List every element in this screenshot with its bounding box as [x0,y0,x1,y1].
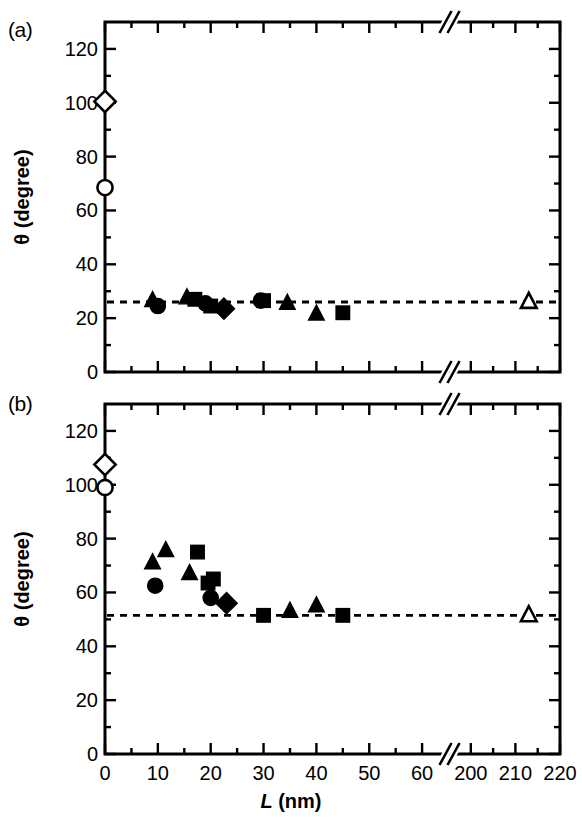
datapoint-filled-triangle-4-panel-b [309,597,325,612]
datapoint-filled-square-2-panel-b [201,576,214,589]
x-tick-label-200: 200 [454,762,487,785]
plot-frame-panel-a [105,22,560,372]
y-tick-label-0-panel-b: 0 [30,743,98,766]
datapoint-filled-triangle-1-panel-a [179,289,195,304]
y-tick-label-80-panel-a: 80 [30,145,98,168]
datapoint-filled-square-0-panel-b [191,545,204,558]
x-axis-title-symbol: L [260,790,272,812]
y-tick-label-0-panel-a: 0 [30,361,98,384]
y-tick-label-20-panel-a: 20 [30,307,98,330]
y-tick-label-100-panel-a: 100 [30,91,98,114]
x-tick-label-0: 0 [99,762,110,785]
datapoint-open-triangle-0-panel-b [521,606,537,621]
datapoint-filled-circle-1-panel-b [203,590,218,605]
datapoint-filled-circle-1-panel-a [198,296,213,311]
datapoint-filled-triangle-3-panel-a [309,305,325,320]
datapoint-open-triangle-0-panel-a [521,293,537,308]
datapoint-filled-square-1-panel-b [207,572,220,585]
x-axis-break-top-panel-b [440,393,460,415]
datapoint-filled-diamond-0-panel-b [216,593,237,614]
x-axis-title-unit: (nm) [273,790,322,812]
y-tick-label-80-panel-b: 80 [30,527,98,550]
datapoint-open-diamond-0-panel-b [94,454,115,475]
datapoint-filled-circle-0-panel-b [148,578,163,593]
x-axis-break-top-panel-a [440,11,460,33]
x-tick-label-10: 10 [147,762,169,785]
datapoint-filled-triangle-3-panel-b [282,602,298,617]
y-tick-label-40-panel-a: 40 [30,253,98,276]
datapoint-filled-triangle-2-panel-a [279,294,295,309]
datapoint-filled-square-2-panel-a [257,294,270,307]
x-tick-label-20: 20 [200,762,222,785]
datapoint-filled-diamond-0-panel-a [213,298,234,319]
datapoint-filled-triangle-1-panel-b [158,542,174,557]
y-tick-label-100-panel-b: 100 [30,473,98,496]
datapoint-filled-triangle-0-panel-a [145,292,161,307]
y-tick-label-60-panel-a: 60 [30,199,98,222]
y-tick-label-20-panel-b: 20 [30,689,98,712]
datapoint-filled-circle-0-panel-a [150,298,165,313]
datapoint-filled-triangle-0-panel-b [145,554,161,569]
datapoint-open-circle-0-panel-b [97,480,112,495]
y-tick-label-120-panel-b: 120 [30,419,98,442]
plot-frame-panel-b [105,404,560,754]
datapoint-filled-square-3-panel-b [257,609,270,622]
datapoint-filled-circle-2-panel-a [253,293,268,308]
datapoint-filled-triangle-2-panel-b [182,564,198,579]
x-tick-label-220: 220 [543,762,576,785]
x-axis-title: L (nm) [0,790,582,813]
datapoint-filled-square-3-panel-a [336,306,349,319]
datapoint-filled-square-0-panel-a [188,293,201,306]
x-axis-break-bottom-panel-a [440,361,460,383]
y-tick-label-40-panel-b: 40 [30,635,98,658]
datapoint-filled-square-1-panel-a [204,299,217,312]
x-tick-label-50: 50 [358,762,380,785]
panel-label-b: (b) [8,392,32,416]
x-tick-label-210: 210 [499,762,532,785]
y-tick-label-120-panel-a: 120 [30,37,98,60]
datapoint-open-circle-0-panel-a [97,180,112,195]
x-tick-label-40: 40 [305,762,327,785]
figure-root: (a) (b) θ (degree) θ (degree) L (nm) 020… [0,0,582,827]
datapoint-filled-square-4-panel-b [336,609,349,622]
panel-label-a: (a) [8,18,32,42]
y-tick-label-60-panel-b: 60 [30,581,98,604]
x-tick-label-30: 30 [252,762,274,785]
x-tick-label-60: 60 [411,762,433,785]
